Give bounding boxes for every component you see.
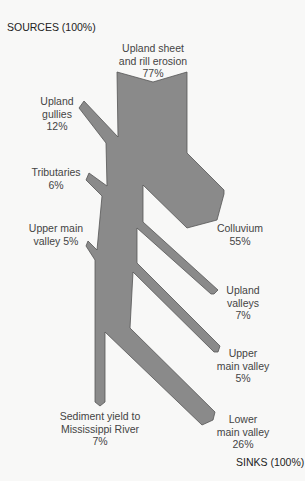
main-trunk-flow <box>79 72 224 425</box>
sink-upland-valleys-line1: Upland <box>218 284 268 297</box>
sink-label-lower-main-valley: Lower main valley 26% <box>213 413 273 451</box>
source-label-upland-sheet-rill: Upland sheet and rill erosion 77% <box>113 42 193 80</box>
source-upland-sheet-value: 77% <box>113 67 193 80</box>
source-upper-main-line1: Upper main <box>24 222 88 235</box>
sink-upland-valleys-value: 7% <box>218 309 268 322</box>
sink-label-colluvium: Colluvium 55% <box>215 222 265 247</box>
sink-lower-main-line1: Lower <box>213 413 273 426</box>
source-tributaries-line1: Tributaries <box>26 166 86 179</box>
source-upper-main-line2: valley 5% <box>24 235 88 248</box>
sink-upper-main-line2: main valley <box>213 360 273 373</box>
sink-upper-main-line1: Upper <box>213 347 273 360</box>
source-tributaries-value: 6% <box>26 179 86 192</box>
sink-upper-main-value: 5% <box>213 372 273 385</box>
sink-lower-main-line2: main valley <box>213 426 273 439</box>
sources-title: SOURCES (100%) <box>7 21 96 33</box>
sink-sediment-value: 7% <box>54 435 146 448</box>
sinks-title: SINKS (100%) <box>236 456 304 468</box>
sink-sediment-line2: Mississippi River <box>54 423 146 436</box>
sink-label-upper-main-valley: Upper main valley 5% <box>213 347 273 385</box>
source-gullies-line2: gullies <box>32 108 82 121</box>
sink-colluvium-value: 55% <box>215 235 265 248</box>
source-gullies-line1: Upland <box>32 95 82 108</box>
source-label-upland-gullies: Upland gullies 12% <box>32 95 82 133</box>
sink-sediment-line1: Sediment yield to <box>54 410 146 423</box>
source-upland-sheet-line2: and rill erosion <box>113 55 193 68</box>
sink-lower-main-value: 26% <box>213 438 273 451</box>
sink-colluvium-line1: Colluvium <box>215 222 265 235</box>
sink-label-sediment-yield: Sediment yield to Mississippi River 7% <box>54 410 146 448</box>
sink-label-upland-valleys: Upland valleys 7% <box>218 284 268 322</box>
source-gullies-value: 12% <box>32 120 82 133</box>
source-label-upper-main-valley: Upper main valley 5% <box>24 222 88 247</box>
sink-upland-valleys-line2: valleys <box>218 297 268 310</box>
source-upland-sheet-line1: Upland sheet <box>113 42 193 55</box>
source-label-tributaries: Tributaries 6% <box>26 166 86 191</box>
